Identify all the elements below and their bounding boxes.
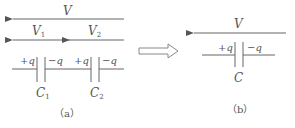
capacitor-c2-label: C2	[90, 86, 104, 101]
capacitor-c1-label: C1	[36, 86, 50, 101]
capacitor-c2: +q −q C2	[74, 55, 117, 101]
capacitor-c: +q −q C	[218, 42, 262, 85]
charge-label-c-right: −q	[247, 42, 262, 53]
series-capacitor-diagram: V V1 V2 +q −q C1 +q −q C2	[0, 0, 295, 128]
charge-label-c2-left: +q	[74, 55, 89, 66]
hollow-right-arrow-icon	[139, 44, 178, 58]
capacitor-c-label: C	[234, 71, 243, 85]
voltage-total-label-b: V	[234, 17, 244, 31]
voltage-v2-arrow: V2	[70, 24, 124, 40]
charge-label-c-left: +q	[218, 42, 233, 53]
voltage-v1-arrow: V1	[13, 24, 70, 40]
voltage-v2-label: V2	[88, 24, 101, 39]
caption-b: （b）	[227, 104, 253, 115]
voltage-total-arrow-a: V	[13, 4, 124, 19]
capacitor-c1: +q −q C1	[20, 55, 63, 101]
charge-label-c1-right: −q	[48, 55, 63, 66]
panel-a: V V1 V2 +q −q C1 +q −q C2	[12, 4, 124, 119]
caption-a: （a）	[54, 108, 80, 119]
voltage-total-label-a: V	[63, 4, 73, 18]
panel-b: V +q −q C （b）	[194, 17, 286, 115]
charge-label-c2-right: −q	[102, 55, 117, 66]
charge-label-c1-left: +q	[20, 55, 35, 66]
voltage-v1-label: V1	[32, 24, 45, 39]
voltage-total-arrow-b: V	[194, 17, 286, 33]
